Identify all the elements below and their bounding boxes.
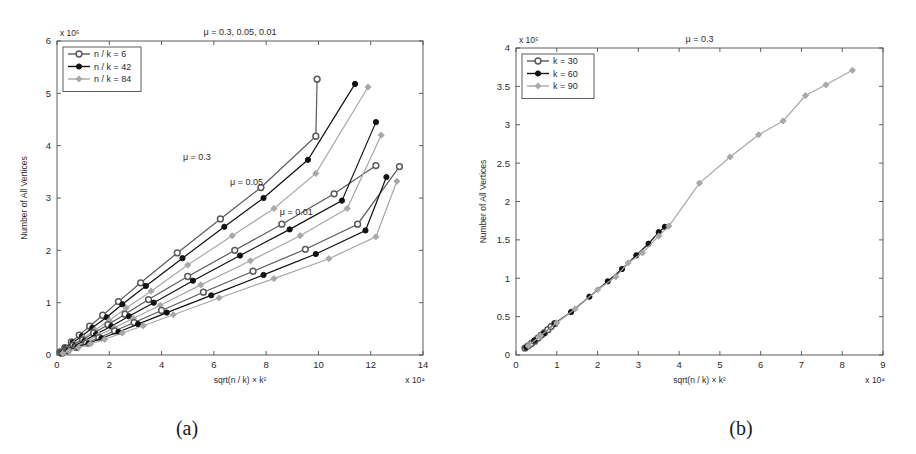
y-tick-label: 6 (46, 35, 51, 46)
x-tick-label: 2 (595, 359, 600, 370)
data-marker (146, 297, 152, 303)
series-line (528, 70, 852, 346)
data-marker (313, 133, 319, 139)
data-marker (384, 174, 389, 179)
data-marker (313, 251, 318, 256)
caption-a: (a) (0, 417, 416, 440)
y-tick-label: 3 (46, 192, 51, 203)
legend-label: n / k = 6 (94, 49, 126, 59)
legend-label: k = 90 (553, 81, 578, 91)
data-marker (823, 82, 829, 88)
x-tick-label: 0 (513, 359, 518, 370)
x-tick-label: 2 (107, 359, 112, 370)
y-tick-label: 1 (505, 273, 510, 284)
series-group (522, 67, 855, 351)
x-exponent-label: x 10⁴ (865, 375, 885, 385)
x-tick-label: 7 (799, 359, 804, 370)
data-marker (373, 234, 379, 240)
data-marker (287, 227, 292, 232)
legend: k = 30k = 60k = 90 (522, 54, 594, 99)
data-marker (201, 289, 207, 295)
annotation-label: μ = 0.05 (230, 177, 263, 187)
legend-label: k = 60 (553, 69, 578, 79)
data-marker (217, 216, 223, 222)
data-marker (250, 268, 256, 274)
panel-a: 024681012140123456x 10⁵x 10⁴μ = 0.3, 0.0… (0, 0, 458, 454)
y-tick-label: 0.5 (497, 311, 510, 322)
y-tick-label: 5 (46, 88, 51, 99)
data-marker (378, 132, 384, 138)
chart-title: μ = 0.3, 0.05, 0.01 (204, 27, 277, 37)
x-tick-label: 3 (636, 359, 641, 370)
legend-label: k = 30 (553, 56, 578, 66)
data-marker (190, 278, 195, 283)
data-marker (279, 221, 285, 227)
x-tick-label: 14 (418, 359, 429, 370)
x-tick-label: 9 (880, 359, 885, 370)
data-marker (198, 282, 204, 288)
series-line (61, 87, 368, 352)
data-marker (174, 250, 180, 256)
data-marker (143, 283, 148, 288)
data-marker (344, 205, 350, 211)
data-marker (849, 67, 855, 73)
x-exponent-label: x 10⁴ (405, 375, 425, 385)
data-marker (355, 221, 361, 227)
data-marker (164, 310, 169, 315)
y-tick-label: 1 (46, 297, 51, 308)
y-tick-label: 2 (46, 245, 51, 256)
legend-label: n / k = 84 (94, 74, 131, 84)
x-tick-label: 4 (159, 359, 164, 370)
y-tick-label: 2 (505, 196, 510, 207)
data-marker (120, 302, 125, 307)
x-tick-label: 6 (758, 359, 763, 370)
y-axis-label: Number of All Vertices (478, 160, 488, 244)
data-marker (397, 164, 403, 170)
panel-b: 012345678900.511.522.533.54x 10⁵x 10⁴μ =… (458, 0, 916, 454)
data-marker (159, 308, 165, 314)
series-line (60, 79, 317, 352)
data-marker (261, 195, 266, 200)
data-marker (305, 157, 310, 162)
data-marker (297, 233, 303, 239)
data-marker (373, 163, 379, 169)
legend-label: n / k = 42 (94, 62, 131, 72)
caption-b: (b) (512, 417, 916, 440)
data-marker (237, 253, 242, 258)
x-tick-label: 1 (554, 359, 559, 370)
y-exponent-label: x 10⁵ (60, 28, 80, 38)
legend: n / k = 6n / k = 42n / k = 84 (63, 47, 141, 92)
data-marker (247, 258, 253, 264)
x-tick-label: 12 (365, 359, 376, 370)
data-marker (326, 256, 332, 262)
y-axis-label: Number of All Vertices (19, 156, 29, 240)
data-marker (331, 191, 337, 197)
data-marker (216, 295, 222, 301)
series-group (57, 76, 402, 356)
data-marker (271, 275, 277, 281)
x-axis-label: sqrt(n / k) × k² (214, 375, 267, 385)
data-marker (232, 247, 238, 253)
x-tick-label: 8 (263, 359, 268, 370)
data-marker (209, 293, 214, 298)
chart-b: 012345678900.511.522.533.54x 10⁵x 10⁴μ =… (458, 0, 916, 400)
annotation-label: μ = 0.3 (183, 152, 211, 162)
data-marker (185, 274, 191, 280)
data-marker (76, 51, 82, 57)
y-tick-label: 3 (505, 119, 510, 130)
x-tick-label: 10 (313, 359, 324, 370)
data-marker (373, 120, 378, 125)
data-marker (352, 81, 357, 86)
data-marker (229, 233, 235, 239)
y-exponent-label: x 10⁵ (519, 35, 539, 45)
y-tick-label: 4 (505, 42, 510, 53)
data-marker (76, 64, 81, 69)
data-marker (339, 198, 344, 203)
chart-a: 024681012140123456x 10⁵x 10⁴μ = 0.3, 0.0… (0, 0, 458, 400)
x-tick-label: 0 (54, 359, 59, 370)
x-tick-label: 6 (211, 359, 216, 370)
x-tick-label: 8 (840, 359, 845, 370)
figure-container: 024681012140123456x 10⁵x 10⁴μ = 0.3, 0.0… (0, 0, 916, 454)
data-marker (394, 178, 400, 184)
data-marker (302, 246, 308, 252)
